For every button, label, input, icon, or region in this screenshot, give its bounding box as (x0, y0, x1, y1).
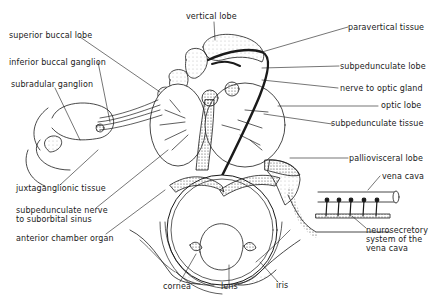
label-subradular-ganglion: subradular ganglion (11, 80, 93, 89)
label-juxtaganglionic-tissue: juxtaganglionic tissue (16, 184, 106, 193)
label-vertical-lobe: vertical lobe (186, 12, 237, 21)
label-iris: iris (276, 281, 288, 290)
label-lens: lens (221, 282, 238, 291)
label-subpedunculate-tissue: subpedunculate tissue (331, 119, 424, 128)
label-subpedunculate-lobe: subpedunculate lobe (340, 62, 426, 71)
subradular-ganglion-shape (44, 136, 61, 152)
label-vena-cava: vena cava (382, 172, 424, 181)
label-optic-lobe: optic lobe (381, 101, 421, 110)
label-paravertical-tissue: paravertical tissue (348, 23, 424, 32)
label-palliovisceral-lobe: palliovisceral lobe (349, 154, 423, 163)
lens-shape (200, 224, 243, 270)
superior-frontal-bump (185, 48, 207, 78)
label-subpedunculate-nerve: subpedunculate nerve to suborbital sinus (16, 206, 108, 224)
label-nerve-to-optic-gland: nerve to optic gland (340, 84, 423, 93)
label-inferior-buccal-ganglion: inferior buccal ganglion (9, 58, 106, 67)
label-cornea: cornea (163, 282, 191, 291)
label-neurosecretory-system: neurosecretory system of the vena cava (366, 226, 428, 253)
label-superior-buccal-lobe: superior buccal lobe (9, 31, 92, 40)
vena-cava-tube (318, 192, 395, 202)
label-anterior-chamber-organ: anterior chamber organ (16, 234, 114, 243)
diagram-drawing (0, 0, 439, 300)
anatomy-diagram: vertical lobe superior buccal lobe infer… (0, 0, 439, 300)
